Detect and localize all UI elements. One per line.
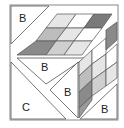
label-bottom-right: B (101, 103, 108, 115)
cube-puzzle-svg: B B C B B (0, 0, 124, 128)
label-right-small: B (64, 86, 71, 98)
label-bottom-left: C (22, 101, 30, 113)
label-middle: B (41, 61, 48, 73)
label-top-left: B (19, 12, 26, 24)
puzzle-diagram: B B C B B (0, 0, 124, 128)
